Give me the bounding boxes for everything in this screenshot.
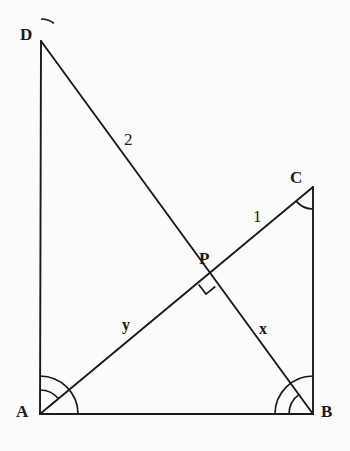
segment-db <box>41 41 313 414</box>
vertex-label-p: P <box>199 250 210 267</box>
segment-label-1: 1 <box>253 208 262 225</box>
vertex-label-a: A <box>16 403 28 420</box>
angle-arc-b <box>275 376 313 414</box>
angle-arc-a <box>40 390 58 399</box>
segment-label-2: 2 <box>124 131 133 148</box>
segment-ad <box>40 41 41 414</box>
segments-group <box>40 41 313 414</box>
angle-arcs-group <box>40 19 313 414</box>
segment-label-x: x <box>259 321 267 337</box>
segment-label-y: y <box>122 317 130 333</box>
vertex-label-d: D <box>20 26 32 43</box>
angle-arc-d <box>41 19 54 23</box>
right-angle-square <box>199 285 216 295</box>
segment-ac <box>40 187 313 414</box>
geometry-canvas <box>0 0 350 451</box>
angle-arc-b <box>289 395 299 414</box>
right-angle-marker <box>199 285 216 295</box>
vertex-label-b: B <box>321 403 333 420</box>
angle-arc-c <box>296 201 313 209</box>
vertex-label-c: C <box>290 169 302 186</box>
geometry-figure: D A B C P 2 1 y x <box>0 0 350 451</box>
